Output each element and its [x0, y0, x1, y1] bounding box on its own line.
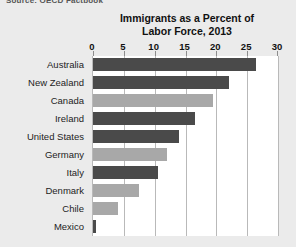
bar-row	[93, 92, 278, 110]
bar-united-states	[93, 130, 179, 143]
y-axis-category-labels: AustraliaNew ZealandCanadaIrelandUnited …	[0, 56, 88, 236]
chart-title-line-1: Immigrants as a Percent of	[92, 12, 282, 25]
bars-group	[93, 56, 278, 236]
plot-area	[92, 56, 279, 236]
bar-row	[93, 110, 278, 128]
bar-row	[93, 56, 278, 74]
x-tick-label-10: 10	[148, 41, 159, 52]
chart-title-line-2: Labor Force, 2013	[92, 25, 282, 38]
immigrants-labor-force-bar-chart: Source: OECD Factbook Immigrants as a Pe…	[0, 0, 296, 247]
bar-canada	[93, 94, 213, 107]
cropped-caption-fragment: Source: OECD Factbook	[6, 0, 186, 5]
bar-germany	[93, 148, 167, 161]
bar-row	[93, 146, 278, 164]
x-tick-label-25: 25	[241, 41, 252, 52]
bar-australia	[93, 58, 256, 71]
bar-ireland	[93, 112, 195, 125]
bar-italy	[93, 166, 158, 179]
x-tick-label-15: 15	[179, 41, 190, 52]
y-axis-label-australia: Australia	[47, 56, 84, 74]
bar-row	[93, 200, 278, 218]
y-axis-label-ireland: Ireland	[55, 110, 84, 128]
y-axis-label-canada: Canada	[51, 92, 84, 110]
bar-row	[93, 164, 278, 182]
x-axis-tick-labels: 051015202530	[0, 41, 296, 53]
chart-title: Immigrants as a Percent of Labor Force, …	[92, 12, 282, 38]
bar-row	[93, 128, 278, 146]
y-axis-label-germany: Germany	[45, 146, 84, 164]
y-axis-label-new-zealand: New Zealand	[28, 74, 84, 92]
y-axis-label-chile: Chile	[62, 200, 84, 218]
bar-row	[93, 74, 278, 92]
bar-row	[93, 218, 278, 236]
bar-denmark	[93, 184, 139, 197]
y-axis-label-mexico: Mexico	[54, 218, 84, 236]
bar-row	[93, 182, 278, 200]
bar-mexico	[93, 220, 96, 233]
y-axis-label-united-states: United States	[27, 128, 84, 146]
bar-new-zealand	[93, 76, 229, 89]
y-axis-label-italy: Italy	[67, 164, 84, 182]
y-axis-label-denmark: Denmark	[45, 182, 84, 200]
bar-chile	[93, 202, 118, 215]
x-tick-label-20: 20	[210, 41, 221, 52]
